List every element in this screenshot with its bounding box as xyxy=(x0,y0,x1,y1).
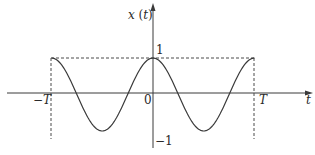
tick-label-neg-T: −T xyxy=(33,93,52,107)
x-axis-label: t xyxy=(306,93,311,107)
tick-label-neg-one: −1 xyxy=(155,134,173,148)
y-axis-label: x (t) xyxy=(128,8,153,22)
tick-label-zero: 0 xyxy=(144,93,152,107)
tick-label-pos-T: T xyxy=(259,93,268,107)
cosine-diagram: x (t) t −T 0 T 1 −1 xyxy=(0,0,315,155)
tick-label-one: 1 xyxy=(156,43,164,57)
